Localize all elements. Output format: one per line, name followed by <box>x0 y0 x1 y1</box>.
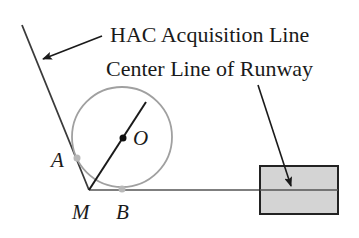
point-M-label: M <box>71 200 91 224</box>
point-B-dot <box>119 186 126 193</box>
centerline-label: Center Line of Runway <box>106 56 313 81</box>
point-O-label: O <box>133 126 148 150</box>
point-B-label: B <box>116 200 129 224</box>
hac-label: HAC Acquisition Line <box>110 22 309 47</box>
hac-label-arrow <box>43 36 102 59</box>
point-O-dot <box>120 135 127 142</box>
point-A-dot <box>74 155 81 162</box>
point-A-label: A <box>49 148 64 172</box>
hac-diagram: HAC Acquisition Line Center Line of Runw… <box>0 0 359 238</box>
